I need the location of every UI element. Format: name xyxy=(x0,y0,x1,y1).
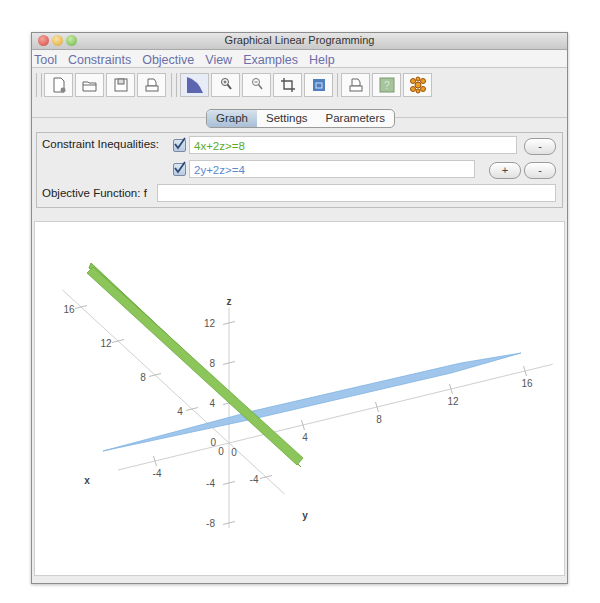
y-tick-label: 4 xyxy=(302,432,308,443)
tab-settings[interactable]: Settings xyxy=(257,110,317,127)
fit-window-icon xyxy=(310,76,328,94)
add-constraint-button[interactable]: + xyxy=(489,162,521,179)
x-tick-label: 4 xyxy=(177,406,183,417)
print-button[interactable] xyxy=(137,73,166,97)
constraints-label: Constraint Inequalities: xyxy=(42,138,159,150)
menu-objective[interactable]: Objective xyxy=(142,52,194,69)
window-title: Graphical Linear Programming xyxy=(32,34,567,46)
menu-tool[interactable]: Tool xyxy=(34,52,57,69)
save-button[interactable] xyxy=(106,73,135,97)
x-tick xyxy=(260,476,272,479)
3d-plot: -4481216-4481216-8-44812000xyz xyxy=(35,222,564,575)
print-graph-icon xyxy=(347,76,365,94)
z-zero-label: 0 xyxy=(210,437,216,448)
y-tick-label: 8 xyxy=(376,414,382,425)
x-tick-label: 16 xyxy=(63,304,75,315)
open-button[interactable] xyxy=(75,73,104,97)
x-tick-label: 8 xyxy=(140,372,146,383)
constraints-panel: Constraint Inequalities: 4x+2z>=8 - 2y+2… xyxy=(36,132,563,208)
toolbar-grip[interactable] xyxy=(171,73,177,97)
z-tick-label: -8 xyxy=(206,518,215,529)
x-axis-line xyxy=(63,290,285,494)
feasible-region-icon xyxy=(186,76,204,94)
constraint-1-input[interactable]: 4x+2z>=8 xyxy=(189,136,517,154)
tab-bar: Graph Settings Parameters xyxy=(206,109,395,128)
toolbar-grip[interactable] xyxy=(36,73,42,97)
menu-help[interactable]: Help xyxy=(309,52,335,69)
molecule-button[interactable] xyxy=(403,73,432,97)
tab-parameters[interactable]: Parameters xyxy=(317,110,394,127)
zoom-in-button[interactable] xyxy=(211,73,240,97)
zoom-out-icon xyxy=(248,76,266,94)
open-folder-icon xyxy=(81,76,99,94)
toolbar-grip[interactable] xyxy=(332,73,338,97)
fit-window-button[interactable] xyxy=(304,73,333,97)
checkmark-icon xyxy=(173,161,187,175)
x-tick-label: 12 xyxy=(100,338,112,349)
constraint-2-input[interactable]: 2y+2z>=4 xyxy=(189,160,475,178)
zoom-out-button[interactable] xyxy=(242,73,271,97)
y-tick-label: 12 xyxy=(447,396,459,407)
molecule-icon xyxy=(409,76,427,94)
x-axis-name: x xyxy=(84,475,90,486)
help-button[interactable]: ? xyxy=(372,73,401,97)
y-axis-line xyxy=(118,364,553,470)
z-tick-label: 8 xyxy=(209,358,215,369)
title-bar: Graphical Linear Programming xyxy=(32,33,567,50)
feasible-region-button[interactable] xyxy=(180,73,209,97)
x-zero-label: 0 xyxy=(218,446,224,457)
constraint-2-checkbox[interactable] xyxy=(173,163,186,176)
z-tick-label: -4 xyxy=(206,478,215,489)
checkmark-icon xyxy=(173,137,187,151)
help-icon: ? xyxy=(378,76,396,94)
constraint-1-checkbox[interactable] xyxy=(173,139,186,152)
print-icon xyxy=(143,76,161,94)
tab-graph[interactable]: Graph xyxy=(207,110,257,127)
extra-tool-group: ? xyxy=(341,73,434,97)
toolbar: ? xyxy=(32,68,567,102)
z-tick-label: 12 xyxy=(204,318,216,329)
app-window: Graphical Linear Programming ToolConstra… xyxy=(31,32,568,584)
y-tick-label: 16 xyxy=(521,378,533,389)
remove-constraint-1-button[interactable]: - xyxy=(524,138,556,155)
save-disk-icon xyxy=(112,76,130,94)
y-zero-label: 0 xyxy=(231,447,237,458)
menu-constraints[interactable]: Constraints xyxy=(68,52,131,69)
y-axis-name: y xyxy=(302,510,308,521)
remove-constraint-2-button[interactable]: - xyxy=(524,162,556,179)
menu-view[interactable]: View xyxy=(205,52,232,69)
x-tick xyxy=(75,306,87,309)
z-axis-name: z xyxy=(227,296,232,307)
svg-text:?: ? xyxy=(384,80,390,91)
zoom-in-icon xyxy=(217,76,235,94)
x-tick-label: -4 xyxy=(250,474,259,485)
file-tool-group xyxy=(44,73,168,97)
x-tick xyxy=(186,408,198,411)
menu-examples[interactable]: Examples xyxy=(243,52,298,69)
plane-4x-2z-8-band xyxy=(87,267,303,465)
menu-bar: ToolConstraintsObjectiveViewExamplesHelp xyxy=(32,50,567,68)
objective-label: Objective Function: f xyxy=(42,187,147,199)
x-tick xyxy=(149,374,161,377)
x-tick xyxy=(112,340,124,343)
view-tool-group xyxy=(180,73,335,97)
new-file-icon xyxy=(50,76,68,94)
print-graph-button[interactable] xyxy=(341,73,370,97)
objective-function-input[interactable] xyxy=(157,184,556,202)
z-tick-label: 4 xyxy=(209,398,215,409)
crop-icon xyxy=(279,76,297,94)
graph-canvas[interactable]: -4481216-4481216-8-44812000xyz xyxy=(34,221,565,576)
y-tick-label: -4 xyxy=(153,468,162,479)
crop-button[interactable] xyxy=(273,73,302,97)
new-button[interactable] xyxy=(44,73,73,97)
